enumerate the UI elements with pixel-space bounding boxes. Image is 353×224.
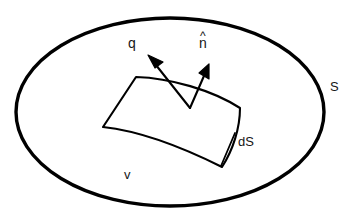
surface-element-leader-line: [221, 133, 235, 166]
surface-element-label: dS: [238, 135, 254, 148]
figure-canvas: q ^ n S dS v: [0, 0, 353, 224]
diagram-svg: [0, 0, 353, 224]
flux-vector-arrowhead: [148, 55, 163, 68]
boundary-surface-ellipse: [16, 18, 324, 206]
caret-icon: ^: [200, 30, 206, 42]
unit-normal-label-stack: ^ n: [199, 36, 207, 50]
flux-vector-label: q: [128, 36, 136, 50]
volume-label: v: [124, 168, 131, 181]
unit-normal-label: ^ n: [199, 36, 207, 50]
surface-element-patch: [103, 77, 240, 167]
surface-label: S: [330, 80, 339, 93]
